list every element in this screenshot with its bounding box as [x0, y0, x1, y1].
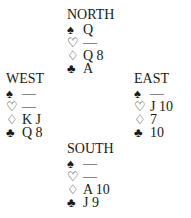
north-clubs-row: ♣ A — [67, 62, 114, 75]
north-hand: NORTH ♠ Q ♡ — ♢ Q 8 ♣ A — [67, 8, 114, 75]
south-hand: SOUTH ♠ — ♡ — ♢ A 10 ♣ J 9 — [67, 142, 114, 209]
east-hand: EAST ♠ — ♡ J 10 ♢ 7 ♣ 10 — [134, 72, 173, 139]
south-label: SOUTH — [67, 142, 114, 156]
club-icon: ♣ — [134, 126, 150, 139]
west-clubs-row: ♣ Q 8 — [6, 126, 44, 139]
north-clubs: A — [83, 62, 93, 75]
east-clubs-row: ♣ 10 — [134, 126, 173, 139]
club-icon: ♣ — [6, 126, 22, 139]
west-label: WEST — [6, 72, 44, 86]
east-label: EAST — [134, 72, 173, 86]
club-icon: ♣ — [67, 62, 83, 75]
south-clubs: J 9 — [83, 196, 99, 209]
south-clubs-row: ♣ J 9 — [67, 196, 114, 209]
west-clubs: Q 8 — [22, 126, 43, 139]
north-label: NORTH — [67, 8, 114, 22]
east-clubs: 10 — [150, 126, 164, 139]
club-icon: ♣ — [67, 196, 83, 209]
west-hand: WEST ♠ — ♡ — ♢ K J ♣ Q 8 — [6, 72, 44, 139]
